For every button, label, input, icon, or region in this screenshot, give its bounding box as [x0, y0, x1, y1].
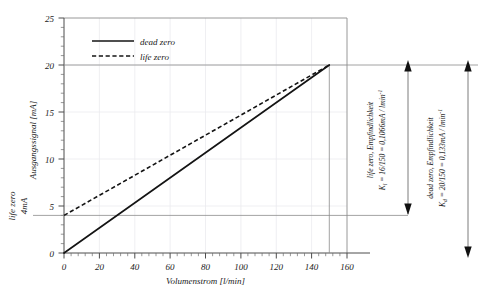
y-axis-title: Ausgangssignal [mA] — [28, 100, 38, 180]
y-tick-label-0: 0 — [50, 249, 55, 259]
life-zero-sensitivity-title: life zero, Empfindlichkeit — [366, 101, 375, 178]
dead-zero-formula-body: = 20/150 = 0,133mA / lmin — [438, 113, 447, 199]
y-tick-label-5: 5 — [50, 202, 55, 212]
y-tick-label-25: 25 — [45, 14, 55, 24]
x-tick-label-120: 120 — [270, 262, 284, 272]
life-zero-span-arrowhead-bottom — [404, 204, 411, 216]
series-life-zero-line — [64, 65, 329, 215]
dead-zero-sensitivity-title: dead zero, Empfindlichkeit — [426, 116, 435, 198]
x-axis-title: Volumenstrom [l/min] — [166, 276, 245, 286]
x-tick-label-140: 140 — [305, 262, 319, 272]
dead-zero-span-arrowhead-bottom — [464, 247, 471, 259]
dead-zero-sensitivity-formula: Kd = 20/150 = 0,133mA / lmin-1 — [437, 109, 448, 208]
life-zero-exponent: -1 — [377, 90, 383, 95]
life-zero-sensitivity-formula: Kl = 16/150 = 0,1066mA / lmin-1 — [377, 90, 388, 192]
y-tick-label-20: 20 — [45, 61, 55, 71]
x-tick-label-40: 40 — [130, 262, 140, 272]
dead-zero-exponent: -1 — [437, 109, 443, 114]
x-tick-label-0: 0 — [62, 262, 67, 272]
y-tick-label-10: 10 — [45, 155, 55, 165]
life-zero-offset-label-line1: life zero — [7, 191, 17, 220]
life-zero-offset-label-line2: 4mA — [19, 197, 29, 214]
y-major-ticks — [59, 18, 65, 253]
x-tick-label-20: 20 — [95, 262, 105, 272]
legend: dead zero life zero — [92, 37, 175, 62]
legend-label-life-zero: life zero — [140, 52, 169, 62]
life-zero-span-arrowhead-top — [404, 60, 411, 72]
x-tick-label-100: 100 — [234, 262, 248, 272]
grid-vertical — [99, 18, 311, 253]
life-zero-formula-body: = 16/150 = 0,1066mA / lmin — [378, 94, 387, 183]
dead-zero-sensitivity-annotation: dead zero, Empfindlichkeit Kd = 20/150 =… — [426, 60, 472, 258]
x-tick-label-60: 60 — [166, 262, 176, 272]
life-zero-sensitivity-annotation: life zero, Empfindlichkeit Kl = 16/150 =… — [366, 60, 412, 215]
y-tick-label-15: 15 — [45, 108, 55, 118]
legend-label-dead-zero: dead zero — [140, 37, 175, 47]
dead-zero-span-arrowhead-top — [464, 60, 471, 72]
figure-root: 25 20 15 10 5 0 0 20 40 60 80 100 120 14… — [0, 0, 490, 295]
x-tick-label-160: 160 — [340, 262, 354, 272]
x-tick-label-80: 80 — [201, 262, 211, 272]
sensor-characteristic-chart: 25 20 15 10 5 0 0 20 40 60 80 100 120 14… — [0, 0, 490, 295]
